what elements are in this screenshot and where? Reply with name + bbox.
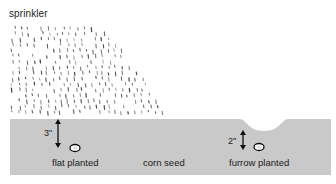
seed-icon: [254, 144, 264, 151]
seed-icon: [70, 145, 80, 152]
flat-planted-label: flat planted: [52, 157, 98, 168]
flat-depth-label: 3": [44, 128, 52, 138]
furrow-depth-label: 2": [228, 136, 236, 146]
corn-seed-label: corn seed: [143, 157, 185, 168]
furrow-planted-label: furrow planted: [229, 157, 289, 168]
